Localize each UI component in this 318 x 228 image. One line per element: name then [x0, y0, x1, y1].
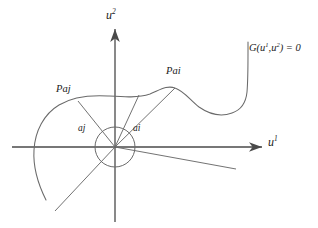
ray-lower-left [55, 147, 115, 211]
u1-axis-group [12, 142, 262, 152]
ray-to-curve-upper [115, 95, 139, 147]
ray-lower-right [115, 147, 236, 169]
angle-ai-label: ai [133, 124, 140, 134]
origin-rays-group [55, 88, 236, 211]
u2-axis-label: u2 [106, 9, 116, 21]
u2-axis-group [110, 29, 120, 222]
u1-axis-label: u1 [268, 136, 278, 148]
math-diagram-canvas: u2 u1 G(u1,u2) = 0 Pai Paj ai aj [0, 0, 318, 228]
point-pai-label: Pai [166, 66, 181, 77]
diagram-vector-layer [0, 0, 318, 228]
angle-aj-label: aj [78, 124, 85, 134]
curve-equation-label: G(u1,u2) = 0 [249, 43, 301, 54]
point-paj-label: Paj [56, 84, 71, 95]
